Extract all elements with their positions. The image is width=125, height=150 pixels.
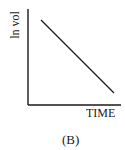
- data-line: [41, 20, 114, 93]
- figure-caption: (B): [62, 133, 79, 147]
- x-axis-label: TIME: [86, 107, 115, 120]
- y-axis-label: ln vol: [9, 7, 21, 43]
